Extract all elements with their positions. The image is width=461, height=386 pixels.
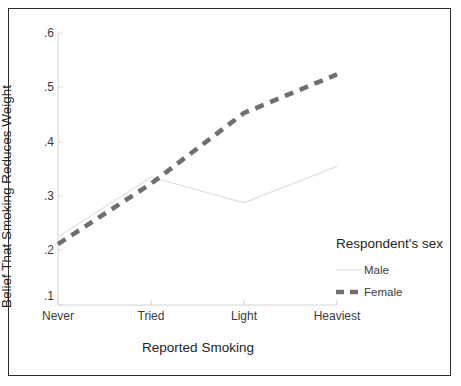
legend-label-female: Female [364, 286, 402, 298]
y-axis-title-wrapper: Belief That Smoking Reduces Weight [14, 28, 32, 308]
x-axis-title: Reported Smoking [58, 340, 338, 355]
dashed-line-swatch [336, 282, 362, 290]
plot-canvas [0, 0, 461, 386]
x-axis-ticks [58, 300, 337, 305]
series-line-male [58, 166, 337, 237]
series-line-female [58, 74, 337, 244]
x-tick-label-tried: Tried [121, 310, 181, 323]
y-tick-label: .5 [30, 81, 54, 93]
legend-row-female: Female [336, 278, 452, 300]
legend: Respondent's sex Male Female [336, 236, 452, 300]
solid-line-swatch [336, 260, 362, 268]
y-tick-label: .2 [30, 244, 54, 256]
x-tick-label-heaviest: Heaviest [303, 310, 371, 323]
chart-figure: .6 .5 .4 .3 .2 .1 Never Tried Light Heav… [0, 0, 461, 386]
y-tick-label: .3 [30, 190, 54, 202]
legend-row-male: Male [336, 256, 452, 278]
legend-title: Respondent's sex [336, 236, 452, 251]
y-axis-title: Belief That Smoking Reduces Weight [0, 85, 14, 308]
legend-label-male: Male [364, 264, 389, 276]
y-axis-ticks [58, 33, 63, 305]
x-tick-label-never: Never [28, 310, 88, 323]
y-tick-label: .4 [30, 136, 54, 148]
y-tick-label: .6 [30, 27, 54, 39]
x-tick-label-light: Light [214, 310, 274, 323]
y-tick-label: .1 [30, 290, 54, 302]
